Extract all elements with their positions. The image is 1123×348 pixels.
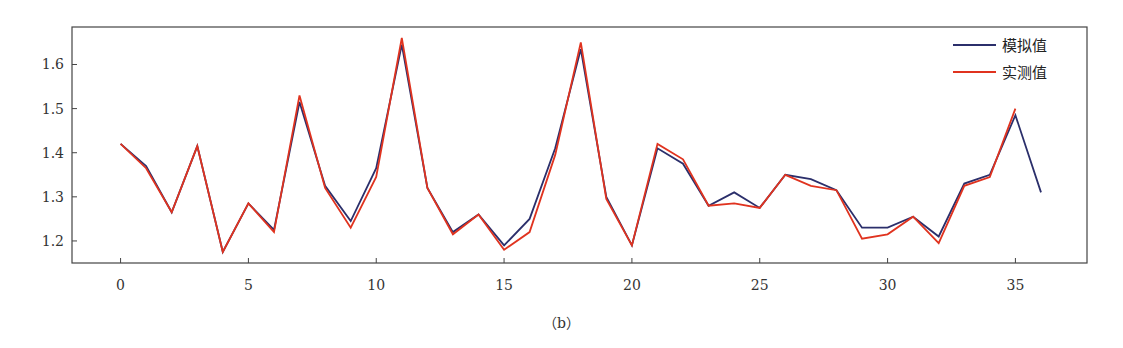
x-tick-label: 25	[751, 277, 769, 293]
line-chart: 1.21.31.41.51.6 05101520253035 模拟值 实测值	[0, 0, 1123, 348]
x-tick-label: 0	[116, 277, 125, 293]
y-tick-label: 1.6	[42, 56, 64, 72]
plot-frame	[72, 27, 1087, 263]
x-tick-label: 35	[1006, 277, 1024, 293]
y-tick-label: 1.5	[42, 101, 64, 117]
figure-caption: （b）	[0, 312, 1123, 332]
legend-label-simulated: 模拟值	[1002, 37, 1047, 55]
y-tick-label: 1.2	[42, 233, 64, 249]
x-tick-label: 20	[623, 277, 641, 293]
x-tick-label: 10	[367, 277, 385, 293]
legend-label-measured: 实测值	[1002, 64, 1047, 82]
y-tick-label: 1.4	[42, 145, 64, 161]
x-tick-label: 5	[244, 277, 253, 293]
y-tick-label: 1.3	[42, 189, 64, 205]
x-tick-label: 15	[495, 277, 513, 293]
x-tick-label: 30	[879, 277, 897, 293]
